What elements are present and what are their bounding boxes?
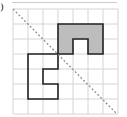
reflection-diagram xyxy=(0,0,127,117)
shaded-shape xyxy=(58,24,103,54)
